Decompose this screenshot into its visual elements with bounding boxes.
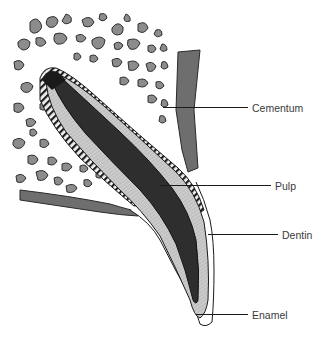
tooth-illustration	[0, 0, 322, 338]
label-pulp: Pulp	[275, 180, 296, 192]
cementum-leader-line	[163, 107, 248, 108]
label-cementum: Cementum	[252, 102, 303, 114]
dentin-leader-line	[208, 234, 278, 235]
pulp-leader-line	[160, 185, 271, 186]
enamel-leader-line	[196, 314, 248, 315]
label-dentin: Dentin	[282, 229, 312, 241]
label-enamel: Enamel	[252, 309, 288, 321]
gingiva-right	[176, 50, 200, 172]
tooth-diagram: Cementum Pulp Dentin Enamel	[0, 0, 322, 338]
